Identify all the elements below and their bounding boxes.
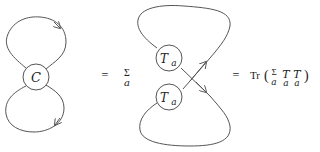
- vertex-ta-lower-sub: a: [171, 97, 176, 107]
- open-paren: (: [264, 68, 269, 84]
- sum-index-1: a: [124, 77, 130, 88]
- t1-sub: a: [283, 78, 288, 88]
- left-diagram: C: [6, 17, 66, 132]
- vertex-ta-upper-sub: a: [171, 58, 176, 68]
- trace-expression: = Tr ( Σ a T a T a ): [233, 67, 309, 88]
- cross-arrow-down-icon: [196, 82, 206, 92]
- top-loop: [138, 6, 230, 58]
- bottom-loop: [140, 96, 230, 146]
- t2-sub: a: [294, 78, 299, 88]
- vertex-c-label: C: [31, 70, 41, 85]
- close-paren: ): [304, 68, 309, 84]
- trace-op: Tr: [250, 69, 260, 81]
- vertex-ta-lower-base: T: [160, 91, 169, 105]
- sum-index-2: a: [271, 77, 276, 87]
- middle-diagram: T a T a: [138, 6, 230, 146]
- cross-arrow-up-icon: [190, 62, 206, 81]
- diagram-canvas: C = Σ a T a T a = Tr ( Σ a T a T a ): [0, 0, 320, 152]
- equals-2: =: [233, 68, 240, 82]
- equals-1: =: [102, 68, 109, 82]
- sum-symbol-2: Σ: [271, 67, 276, 77]
- vertex-ta-upper-base: T: [160, 52, 169, 66]
